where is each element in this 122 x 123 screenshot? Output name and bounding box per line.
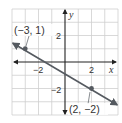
x-tick-label-neg2: −2	[33, 65, 43, 75]
x-tick-label-2: 2	[89, 65, 94, 75]
point-b-label: (2, −2)	[69, 103, 100, 115]
x-axis-label: x	[108, 64, 114, 75]
coordinate-plane: (−3, 1) (2, −2) −2 2 2 −2 x y	[0, 0, 122, 123]
y-tick-label-neg2: −2	[51, 85, 61, 95]
y-axis-label: y	[68, 9, 74, 20]
point-a-label: (−3, 1)	[14, 24, 45, 36]
y-tick-label-2: 2	[56, 31, 61, 41]
point-a-leader	[26, 36, 29, 46]
point-a-marker	[23, 46, 28, 51]
point-b-marker	[89, 86, 94, 91]
